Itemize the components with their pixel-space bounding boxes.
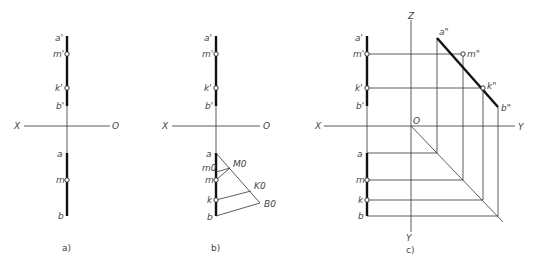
point-k: [214, 198, 218, 202]
point-k-prime: [214, 86, 218, 90]
caption-b: b): [211, 243, 220, 253]
axis-label-x: X: [161, 121, 169, 131]
axis-label-y-vertical: Y: [406, 233, 413, 243]
label-K0: K0: [254, 181, 266, 191]
label-k: k: [207, 195, 213, 205]
label-m-prime: m': [53, 49, 64, 59]
point-m: [65, 178, 69, 182]
label-a: a: [57, 149, 63, 159]
point-k: [365, 198, 369, 202]
label-a-prime: a': [55, 33, 63, 43]
label-k-double-prime: k": [487, 81, 496, 91]
point-m-prime: [65, 52, 69, 56]
label-B0: B0: [264, 199, 276, 209]
panel-b: X O a' m' k' b' a m0 m k b M0 K0 B0 b): [161, 33, 276, 253]
point-m-prime: [365, 52, 369, 56]
point-k-prime: [65, 86, 69, 90]
label-m-double-prime: m": [467, 49, 480, 59]
label-b: b: [58, 211, 64, 221]
label-k-prime: k': [55, 83, 63, 93]
label-m: m: [205, 175, 214, 185]
label-m-prime: m': [202, 49, 213, 59]
label-b-prime: b': [56, 101, 64, 111]
panel-c: X O Z Y Y a' m' k' b' a m k b: [314, 11, 525, 255]
label-k-prime: k': [204, 83, 212, 93]
label-b-prime: b': [205, 101, 213, 111]
label-k: k: [358, 195, 364, 205]
label-b: b: [358, 211, 364, 221]
caption-a: a): [62, 243, 71, 253]
point-m: [365, 178, 369, 182]
point-m-double-prime: [461, 52, 465, 56]
label-b: b: [207, 212, 213, 222]
point-m: [214, 178, 218, 182]
axis-label-x: X: [13, 121, 21, 131]
diagonal-45-line: [411, 126, 503, 222]
label-m: m: [56, 175, 65, 185]
axis-label-z: Z: [407, 11, 415, 21]
label-b-prime: b': [356, 101, 364, 111]
label-a: a: [206, 149, 212, 159]
label-a: a: [357, 149, 363, 159]
label-a-prime: a': [355, 33, 363, 43]
axis-label-x: X: [314, 121, 322, 131]
label-k-prime: k': [355, 83, 363, 93]
panel-a: X O a' m' k' b' a m b a): [13, 33, 119, 253]
axis-label-o: O: [413, 116, 420, 126]
label-a-prime: a': [204, 33, 212, 43]
construction-line-kK0: [216, 191, 251, 200]
axis-label-o: O: [263, 121, 270, 131]
label-m0: m0: [202, 163, 217, 173]
axis-label-o: O: [112, 121, 119, 131]
projection-figure: X O a' m' k' b' a m b a) X O a' m' k' b': [0, 0, 534, 266]
label-a-double-prime: a": [439, 27, 449, 37]
point-k-double-prime: [481, 86, 485, 90]
label-m: m: [356, 175, 365, 185]
axis-label-y-horizontal: Y: [518, 122, 525, 132]
label-m-prime: m': [353, 49, 364, 59]
caption-c: c): [406, 245, 414, 255]
point-k-prime: [365, 86, 369, 90]
point-m-prime: [214, 52, 218, 56]
label-b-double-prime: b": [501, 103, 511, 113]
construction-line-bB0: [216, 203, 260, 216]
label-M0: M0: [233, 159, 247, 169]
